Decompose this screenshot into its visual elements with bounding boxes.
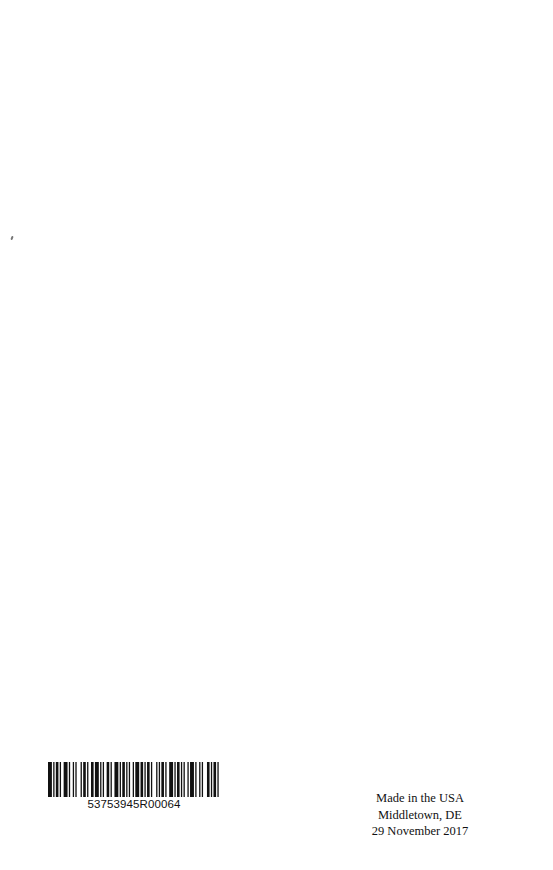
barcode-block: 53753945R00064 bbox=[48, 762, 220, 810]
imprint-location: Middletown, DE bbox=[340, 807, 500, 824]
imprint-origin: Made in the USA bbox=[340, 790, 500, 807]
print-speck bbox=[10, 236, 13, 240]
barcode-icon bbox=[48, 762, 220, 797]
imprint-date: 29 November 2017 bbox=[340, 823, 500, 840]
barcode-number: 53753945R00064 bbox=[48, 798, 220, 810]
print-imprint: Made in the USA Middletown, DE 29 Novemb… bbox=[340, 790, 500, 840]
